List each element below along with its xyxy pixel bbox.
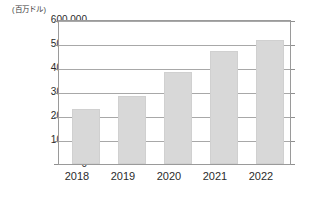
y-tick-mark <box>54 21 58 22</box>
plot-area <box>58 20 291 165</box>
bar-2022 <box>256 40 284 164</box>
y-tick-mark <box>54 141 58 142</box>
y-tick-mark <box>291 117 295 118</box>
y-tick-mark <box>291 93 295 94</box>
y-tick-mark <box>291 164 295 165</box>
bars-layer <box>59 21 290 164</box>
bar-2019 <box>118 96 146 164</box>
y-tick-mark <box>291 141 295 142</box>
y-tick-mark <box>54 117 58 118</box>
bar-2020 <box>164 72 192 164</box>
y-tick-mark <box>54 164 58 165</box>
bar-2018 <box>72 109 100 164</box>
y-tick-mark <box>54 69 58 70</box>
y-tick-mark <box>291 21 295 22</box>
y-tick-mark <box>291 69 295 70</box>
bar-2021 <box>210 51 238 164</box>
y-tick-mark <box>291 45 295 46</box>
y-axis-unit-label: (百万ドル) <box>12 3 46 14</box>
x-axis-tick-label: 2022 <box>233 171 289 182</box>
bar-chart-figure: (百万ドル) 600,000 500,000 400,000 300,000 2… <box>0 0 310 198</box>
y-tick-mark <box>54 45 58 46</box>
y-tick-mark <box>54 93 58 94</box>
